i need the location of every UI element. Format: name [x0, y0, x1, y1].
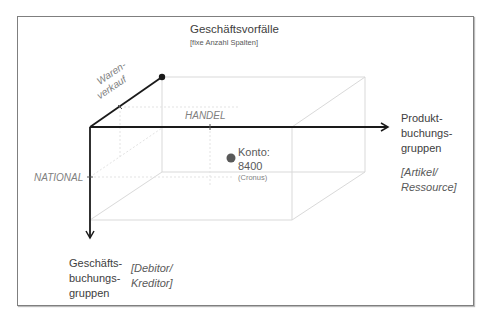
right-axis-title-line2: buchungs-: [401, 126, 452, 141]
down-axis-hint-line2: Kreditor]: [131, 276, 173, 291]
top-axis-subtitle: [fixe Anzahl Spalten]: [190, 38, 258, 48]
right-axis-title-line1: Produkt-: [401, 111, 452, 126]
down-axis-title-line1: Geschäfts-: [69, 256, 122, 271]
down-axis-title-line2: buchungs-: [69, 271, 122, 286]
right-axis-hint-line1: [Artikel/: [401, 165, 457, 180]
account-point-label: Konto: 8400 (Cronus): [238, 145, 270, 183]
down-axis-title: Geschäfts- buchungs- gruppen: [69, 256, 122, 301]
account-point-label-line2: 8400: [238, 159, 270, 173]
account-point-note: (Cronus): [238, 173, 270, 183]
axis-end-dot: [159, 74, 165, 80]
member-label-national: NATIONAL: [34, 171, 83, 185]
account-point-label-line1: Konto:: [238, 145, 270, 159]
right-axis-title-line3: gruppen: [401, 141, 452, 156]
right-axis-hint: [Artikel/ Ressource]: [401, 165, 457, 195]
member-label-handel: HANDEL: [185, 109, 226, 123]
box-bottom-left-diagonal: [90, 172, 162, 220]
down-axis-title-line3: gruppen: [69, 286, 122, 301]
guide-national-depth: [90, 128, 162, 177]
box-top-right-diagonal: [292, 77, 365, 127]
down-axis-hint: [Debitor/ Kreditor]: [131, 261, 173, 291]
right-axis-hint-line2: Ressource]: [401, 180, 457, 195]
right-axis-title: Produkt- buchungs- gruppen: [401, 111, 452, 156]
down-axis-hint-line1: [Debitor/: [131, 261, 173, 276]
account-point-dot: [227, 154, 236, 163]
box-bottom-right-diagonal: [292, 172, 365, 220]
top-axis-title: Geschäftsvorfälle: [190, 22, 279, 36]
